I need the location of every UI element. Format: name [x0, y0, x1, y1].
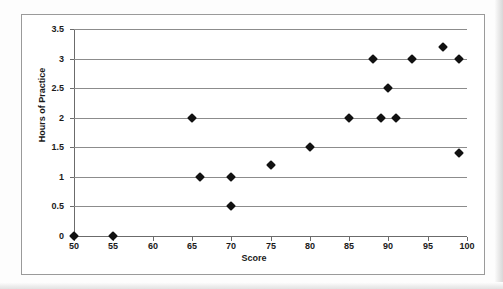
y-axis-tick-label: 0	[24, 231, 64, 241]
data-point-marker	[454, 54, 464, 64]
x-axis-tick-label: 80	[295, 241, 325, 251]
x-axis-tick-label: 65	[177, 241, 207, 251]
data-point-marker	[376, 113, 386, 123]
page-edge-shading-bottom	[0, 282, 503, 289]
x-axis-tick-label: 60	[138, 241, 168, 251]
x-axis-tick-label: 100	[452, 241, 482, 251]
x-axis-title: Score	[22, 253, 486, 263]
data-point-marker	[391, 113, 401, 123]
x-axis-tick-label: 85	[334, 241, 364, 251]
data-point-marker	[383, 83, 393, 93]
x-axis-tick-label: 70	[216, 241, 246, 251]
y-axis-tick-label: 1	[24, 172, 64, 182]
x-axis-tick-label: 75	[256, 241, 286, 251]
data-point-marker	[195, 172, 205, 182]
data-point-marker	[226, 201, 236, 211]
y-axis-tick-label: 0.5	[24, 201, 64, 211]
data-point-marker	[454, 148, 464, 158]
scanned-page: 00.511.522.533.5 50556065707580859095100…	[0, 0, 503, 289]
data-point-marker	[187, 113, 197, 123]
data-point-marker	[226, 172, 236, 182]
y-axis-tick-label: 3.5	[24, 24, 64, 34]
data-point-marker	[266, 160, 276, 170]
data-point-marker	[108, 231, 118, 241]
data-point-marker	[344, 113, 354, 123]
x-axis-tick-label: 95	[413, 241, 443, 251]
data-point-marker	[305, 142, 315, 152]
data-point-marker	[69, 231, 79, 241]
y-axis-title: Hours of Practice	[37, 55, 47, 155]
data-point-marker	[407, 54, 417, 64]
page-edge-shading-right	[494, 0, 503, 289]
chart-frame: 00.511.522.533.5 50556065707580859095100…	[21, 14, 485, 275]
x-axis-tick-label: 55	[98, 241, 128, 251]
data-point-marker	[368, 54, 378, 64]
data-point-marker	[438, 42, 448, 52]
x-axis-tick-label: 50	[59, 241, 89, 251]
x-axis-tick-label: 90	[373, 241, 403, 251]
plot-area	[74, 29, 467, 236]
